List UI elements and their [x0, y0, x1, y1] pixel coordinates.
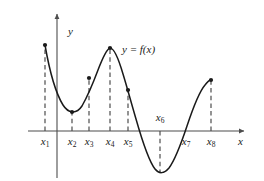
tick-label-x4: x4 — [106, 136, 115, 147]
tick-label-x7: x7 — [182, 136, 191, 147]
tick-label-x3: x3 — [85, 136, 94, 147]
dot-x8 — [209, 78, 213, 82]
dot-x3 — [87, 76, 91, 80]
dashed-guide-lines — [45, 45, 211, 172]
y-axis-label: y — [68, 26, 73, 37]
tick-label-x6: x6 — [156, 112, 165, 123]
tick-label-x2: x2 — [68, 136, 77, 147]
tick-label-x1: x1 — [41, 136, 50, 147]
dot-x1 — [43, 43, 47, 47]
x-axis-label: x — [238, 136, 243, 147]
tick-label-x8: x8 — [207, 136, 216, 147]
curve-equation-label: y = f(x) — [122, 44, 155, 55]
function-graph-figure: y x y = f(x) x1x2x3x4x5x6x7x8 — [0, 0, 264, 181]
dot-x2 — [70, 110, 74, 114]
graph-canvas — [0, 0, 264, 181]
tick-label-x5: x5 — [124, 136, 133, 147]
function-curve — [45, 45, 211, 173]
dot-x4 — [108, 46, 112, 50]
dot-x5 — [126, 88, 130, 92]
